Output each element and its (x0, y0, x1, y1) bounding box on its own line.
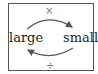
divide-operator: ÷ (46, 61, 54, 71)
arrow-large-to-small (27, 20, 72, 29)
arrow-small-to-large (28, 48, 73, 56)
large-label: large (9, 31, 43, 44)
small-label: small (63, 31, 98, 44)
